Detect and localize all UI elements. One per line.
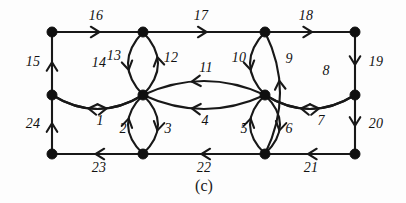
edge-label-17: 17 <box>194 9 208 23</box>
edge-arrow-2 <box>154 121 164 130</box>
edge-11 <box>143 95 265 109</box>
figure-canvas: 123456789101112131415161718192021222324 … <box>0 0 406 203</box>
edge-label-20: 20 <box>369 117 383 131</box>
node-top-inner-left <box>138 27 148 37</box>
edge-label-15: 15 <box>26 55 40 69</box>
edge-label-10: 10 <box>232 51 246 65</box>
node-mid-left <box>47 90 57 100</box>
node-top-left <box>47 27 57 37</box>
edges-layer <box>47 27 361 160</box>
nodes-layer <box>47 27 360 159</box>
edge-label-16: 16 <box>89 9 103 23</box>
node-bottom-inner-left <box>138 149 148 159</box>
node-mid-right <box>350 90 360 100</box>
edge-label-3: 3 <box>164 122 171 136</box>
edge-14 <box>52 95 143 109</box>
edge-label-8: 8 <box>322 64 329 78</box>
edge-label-22: 22 <box>197 161 211 175</box>
edge-label-1: 1 <box>96 114 103 128</box>
node-mid-inner-right <box>260 90 270 100</box>
node-bottom-inner-right <box>260 149 270 159</box>
node-top-inner-right <box>260 27 270 37</box>
edge-label-7: 7 <box>317 114 324 128</box>
node-mid-inner-left <box>138 90 148 100</box>
edge-4 <box>143 81 265 95</box>
edge-label-14: 14 <box>92 56 106 70</box>
edge-label-5: 5 <box>240 122 247 136</box>
edge-label-24: 24 <box>26 117 40 131</box>
node-bottom-left <box>47 149 57 159</box>
edge-label-6: 6 <box>285 122 292 136</box>
node-top-right <box>350 27 360 37</box>
edge-label-2: 2 <box>119 122 126 136</box>
edge-label-9: 9 <box>285 52 292 66</box>
edge-label-23: 23 <box>92 161 106 175</box>
edge-label-12: 12 <box>164 51 178 65</box>
figure-caption: (c) <box>195 178 213 194</box>
edge-label-19: 19 <box>369 55 383 69</box>
edge-label-11: 11 <box>199 61 212 75</box>
edge-label-13: 13 <box>107 49 121 63</box>
edge-label-4: 4 <box>201 114 208 128</box>
edge-label-21: 21 <box>304 161 318 175</box>
node-bottom-right <box>350 149 360 159</box>
edge-label-18: 18 <box>299 9 313 23</box>
